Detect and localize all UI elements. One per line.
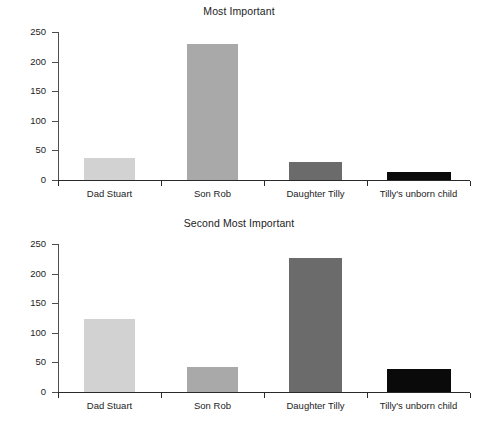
y-axis-tick-label: 150: [0, 86, 46, 96]
y-axis-tick-label: 250: [0, 239, 46, 249]
x-axis-category-label: Dad Stuart: [58, 188, 161, 199]
y-axis-tick-label: 100: [0, 328, 46, 338]
y-axis-tick-label: 200: [0, 57, 46, 67]
x-axis-tick: [264, 181, 265, 186]
bar: [289, 162, 342, 180]
x-axis-category-label: Tilly's unborn child: [367, 188, 470, 199]
y-axis-tick-label: 200: [0, 269, 46, 279]
y-axis-tick-label: 100: [0, 116, 46, 126]
bar: [289, 258, 342, 392]
x-axis-category-label: Son Rob: [161, 188, 264, 199]
y-axis-tick-label: 0: [0, 175, 46, 185]
bar: [84, 158, 135, 180]
bars-layer-0: [58, 32, 470, 180]
y-axis-tick-label: 50: [0, 145, 46, 155]
bar: [387, 369, 451, 392]
figure-canvas: Most Important 050100150200250 Dad Stuar…: [0, 0, 478, 424]
x-axis-tick: [58, 393, 59, 398]
x-axis-tick: [264, 393, 265, 398]
y-axis-tick-label: 50: [0, 357, 46, 367]
bar: [84, 319, 135, 392]
y-axis-tick-label: 0: [0, 387, 46, 397]
x-axis-tick: [58, 181, 59, 186]
x-axis-tick: [470, 181, 471, 186]
x-axis-category-label: Daughter Tilly: [264, 188, 367, 199]
y-axis-tick-label: 150: [0, 298, 46, 308]
x-axis-tick: [367, 393, 368, 398]
bar: [187, 367, 238, 392]
x-axis-tick: [161, 393, 162, 398]
y-axis-tick-label: 250: [0, 27, 46, 37]
bar: [387, 172, 451, 180]
x-axis-tick: [470, 393, 471, 398]
chart-title: Most Important: [0, 5, 478, 17]
x-axis-tick: [367, 181, 368, 186]
x-axis-category-label: Dad Stuart: [58, 400, 161, 411]
chart-panel-second-most-important: Second Most Important 050100150200250 Da…: [0, 212, 478, 424]
bar: [187, 44, 238, 180]
x-axis-category-label: Son Rob: [161, 400, 264, 411]
x-axis-category-label: Daughter Tilly: [264, 400, 367, 411]
chart-panel-most-important: Most Important 050100150200250 Dad Stuar…: [0, 0, 478, 212]
x-axis-tick: [161, 181, 162, 186]
bars-layer-1: [58, 244, 470, 392]
chart-title: Second Most Important: [0, 217, 478, 229]
x-axis-category-label: Tilly's unborn child: [367, 400, 470, 411]
